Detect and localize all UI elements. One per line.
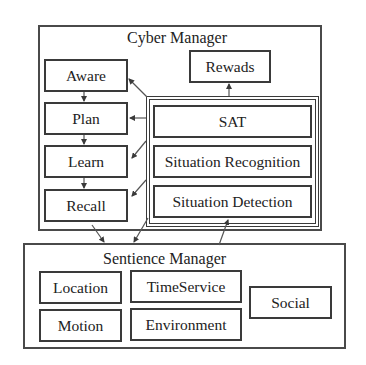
plan-box: Plan xyxy=(44,102,128,135)
motion-label: Motion xyxy=(58,318,104,334)
recall-label: Recall xyxy=(66,198,106,214)
rewards-label: Rewads xyxy=(205,59,254,75)
situation-recognition-label: Situation Recognition xyxy=(165,154,301,170)
timeservice-box: TimeService xyxy=(130,270,242,303)
plan-label: Plan xyxy=(72,111,100,127)
situation-recognition-box: Situation Recognition xyxy=(153,145,312,178)
sentience-manager-title: Sentience Manager xyxy=(103,251,226,267)
recall-box: Recall xyxy=(44,189,128,222)
aware-box: Aware xyxy=(44,59,128,92)
timeservice-label: TimeService xyxy=(147,279,226,295)
social-box: Social xyxy=(249,286,332,319)
rewards-box: Rewads xyxy=(189,50,271,83)
motion-box: Motion xyxy=(39,309,122,342)
environment-label: Environment xyxy=(146,317,227,333)
sat-label: SAT xyxy=(219,114,247,130)
situation-detection-box: Situation Detection xyxy=(153,185,312,218)
aware-label: Aware xyxy=(66,68,106,84)
social-label: Social xyxy=(271,295,310,311)
environment-box: Environment xyxy=(130,308,242,341)
learn-label: Learn xyxy=(68,154,104,170)
location-box: Location xyxy=(39,271,122,304)
situation-detection-label: Situation Detection xyxy=(172,194,292,210)
sat-box: SAT xyxy=(153,105,312,138)
learn-box: Learn xyxy=(44,145,128,178)
cyber-manager-title: Cyber Manager xyxy=(127,30,227,46)
location-label: Location xyxy=(53,280,108,296)
